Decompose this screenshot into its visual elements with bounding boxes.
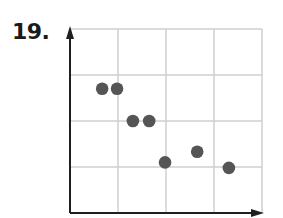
data-point: [191, 146, 204, 159]
data-point: [159, 156, 172, 169]
data-point: [223, 162, 236, 175]
data-point: [111, 83, 124, 96]
y-axis-arrow-icon: [66, 26, 74, 39]
grid-lines: [70, 29, 262, 213]
data-point: [127, 115, 140, 128]
data-point: [143, 115, 156, 128]
data-point: [96, 83, 109, 96]
scatter-plot: [0, 0, 283, 218]
